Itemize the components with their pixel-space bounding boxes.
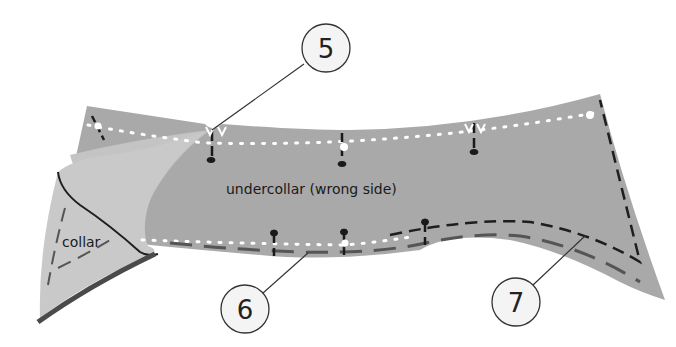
callout-6-number: 6 <box>237 295 254 325</box>
collar-label: collar <box>62 234 101 250</box>
undercollar-label: undercollar (wrong side) <box>226 181 397 197</box>
callout-6: 6 <box>221 253 308 333</box>
collar-diagram: undercollar (wrong side) collar 5 6 7 <box>0 0 676 347</box>
callout-5: 5 <box>212 24 350 130</box>
callout-5-number: 5 <box>318 34 335 64</box>
callout-7-number: 7 <box>508 288 525 318</box>
callout-7: 7 <box>492 236 585 326</box>
